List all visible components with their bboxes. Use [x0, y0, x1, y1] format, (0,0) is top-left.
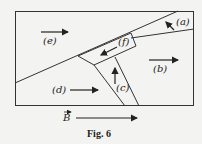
- arrow-a: [166, 22, 174, 30]
- domain-diagram: [0, 0, 202, 144]
- arrow-f: [101, 47, 117, 55]
- label-field-B: B: [63, 113, 70, 123]
- sample-boundary: [16, 12, 194, 106]
- label-region-d: (d): [52, 85, 66, 95]
- label-region-b: (b): [153, 64, 167, 74]
- label-region-e: (e): [43, 36, 57, 46]
- label-region-c: (c): [116, 83, 129, 93]
- label-region-f: (f): [118, 37, 130, 47]
- wedge-a-boundary: [131, 29, 194, 38]
- figure-caption: Fig. 6: [87, 128, 111, 139]
- label-region-a: (a): [176, 17, 190, 27]
